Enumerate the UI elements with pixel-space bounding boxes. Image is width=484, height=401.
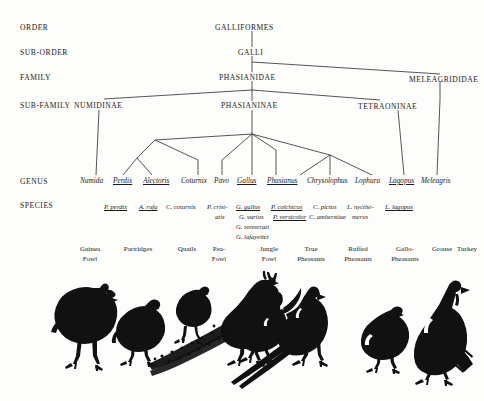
bird-illustrations bbox=[0, 0, 484, 401]
bird-grouse bbox=[361, 306, 409, 374]
bird-partridge bbox=[112, 299, 165, 367]
bird-guinea-fowl bbox=[51, 284, 118, 372]
taxonomy-diagram: ORDER SUB-ORDER FAMILY SUB-FAMILY GENUS … bbox=[0, 0, 484, 401]
bird-turkey bbox=[414, 281, 473, 387]
